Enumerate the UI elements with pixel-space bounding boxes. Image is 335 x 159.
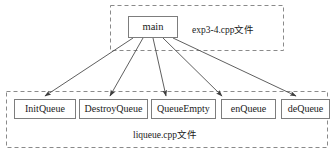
node-main[interactable]: main bbox=[128, 16, 178, 38]
node-enqueue[interactable]: enQueue bbox=[221, 99, 276, 119]
node-queueempty[interactable]: QueueEmpty bbox=[151, 99, 216, 119]
node-dequeue[interactable]: deQueue bbox=[281, 99, 330, 119]
node-destroyqueue[interactable]: DestroyQueue bbox=[79, 99, 148, 119]
node-initqueue[interactable]: InitQueue bbox=[14, 99, 76, 119]
edge-main-to-destroyqueue bbox=[110, 38, 143, 96]
edge-main-to-initqueue bbox=[45, 38, 133, 96]
group-label-liqueue: liqueue.cpp文件 bbox=[133, 127, 197, 141]
edge-main-to-queueempty bbox=[153, 38, 166, 96]
group-label-exp3-4: exp3-4.cpp文件 bbox=[192, 22, 254, 36]
edge-layer bbox=[45, 38, 296, 96]
diagram-canvas: main exp3-4.cpp文件 InitQueue DestroyQueue… bbox=[0, 0, 335, 159]
edge-main-to-dequeue bbox=[173, 38, 296, 96]
